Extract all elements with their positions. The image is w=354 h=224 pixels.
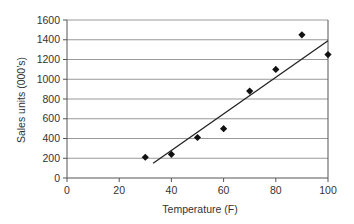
diamond-marker (194, 134, 201, 141)
y-tick-label: 200 (42, 152, 60, 164)
x-tick-label: 0 (64, 184, 70, 196)
diamond-marker (298, 31, 305, 38)
diamond-marker (142, 154, 149, 161)
y-tick-label: 1200 (37, 53, 61, 65)
data-points (142, 31, 332, 161)
x-tick-label: 80 (270, 184, 282, 196)
diamond-marker (324, 51, 331, 58)
x-tick-label: 60 (218, 184, 230, 196)
x-tick-label: 20 (113, 184, 125, 196)
y-tick-label: 1600 (37, 14, 61, 26)
diamond-marker (272, 66, 279, 73)
y-tick-label: 400 (42, 132, 60, 144)
x-axis-title: Temperature (F) (162, 203, 237, 215)
diamond-marker (220, 125, 227, 132)
y-tick-label: 800 (42, 93, 60, 105)
y-tick-label: 1400 (37, 33, 61, 45)
y-axis-ticks: 02004006008001000120014001600 (37, 14, 67, 184)
x-tick-label: 100 (319, 184, 337, 196)
y-axis-title: Sales units (000’s) (15, 57, 27, 143)
y-tick-label: 0 (54, 172, 60, 184)
scatter-chart: 02004006008001000120014001600 0204060801… (0, 0, 354, 224)
y-tick-label: 1000 (37, 73, 61, 85)
x-axis-ticks: 020406080100 (64, 178, 337, 196)
y-tick-label: 600 (42, 112, 60, 124)
x-tick-label: 40 (166, 184, 178, 196)
